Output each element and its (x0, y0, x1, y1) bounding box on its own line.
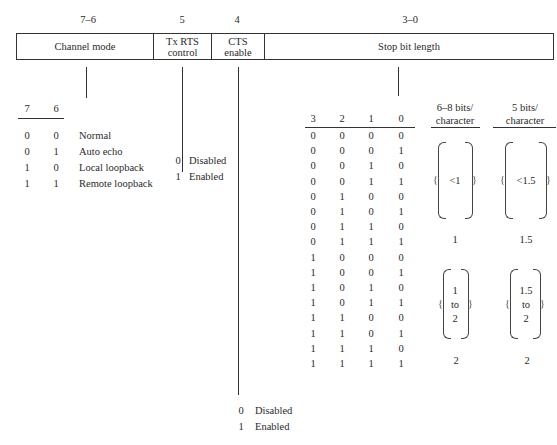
field-stop-bit-label: Stop bit length (378, 41, 440, 52)
tx-rts-opt-0-value: 0 (175, 155, 180, 167)
stop-bit-cell: 1 (398, 328, 403, 340)
tx-rts-opt-0-label: Disabled (189, 155, 226, 167)
brace-left-icon (438, 142, 446, 219)
stop-bit-cell: 0 (398, 160, 403, 172)
stop-bit-cell: 1 (368, 343, 373, 355)
brace-tip-icon: } (468, 299, 473, 309)
stop-bit-cell: 1 (339, 206, 344, 218)
stop-bit-cell: 0 (368, 328, 373, 340)
cts-opt-0-value: 0 (238, 405, 243, 417)
stop-bit-cell: 1 (310, 297, 315, 309)
stop-bit-cell: 1 (339, 343, 344, 355)
field-tx-rts-control: Tx RTS control (154, 34, 212, 59)
channel-row-2-b7: 1 (24, 162, 29, 174)
stop-bit-cell: 0 (368, 191, 373, 203)
brace-tip-icon: { (433, 175, 438, 185)
stop-bit-cell: 1 (368, 221, 373, 233)
cts-opt-0-label: Disabled (255, 405, 292, 417)
value-5-range-to: to (522, 299, 530, 311)
stop-bit-cell: 0 (339, 252, 344, 264)
stop-bit-cell: 0 (368, 252, 373, 264)
field-stop-bit-length: Stop bit length (265, 34, 553, 59)
channel-row-1-label: Auto echo (79, 146, 122, 158)
field-cts-enable: CTS enable (212, 34, 265, 59)
stop-bit-cell: 1 (398, 297, 403, 309)
channel-row-1-b7: 0 (24, 146, 29, 158)
tx-rts-opt-1-label: Enabled (189, 171, 223, 183)
stop-header-0: 0 (398, 113, 403, 125)
channel-header-rule (18, 118, 64, 119)
brace-tip-icon: } (540, 299, 545, 309)
value-6-8-row15: 2 (453, 355, 458, 367)
stop-bit-cell: 1 (339, 312, 344, 324)
stop-bit-cell: 1 (310, 282, 315, 294)
stop-bit-cell: 1 (398, 236, 403, 248)
channel-row-0-b7: 0 (24, 130, 29, 142)
value-5-range-end: 2 (523, 313, 528, 325)
channel-row-2-label: Local loopback (79, 162, 144, 174)
stop-bits-header-rule (305, 127, 415, 128)
register-box: Channel mode Tx RTS control CTS enable S… (16, 33, 554, 60)
value-5-range-from: 1.5 (519, 285, 532, 297)
value-6-8-range-from: 1 (452, 285, 457, 297)
brace-tip-icon: { (505, 299, 510, 309)
bit-label-3-0: 3–0 (402, 14, 418, 26)
stop-bit-cell: 0 (339, 176, 344, 188)
stop-bit-cell: 1 (339, 221, 344, 233)
stop-bit-cell: 1 (310, 252, 315, 264)
header-5-line1: 5 bits/ (512, 102, 538, 114)
stop-bit-cell: 0 (398, 343, 403, 355)
channel-row-2-b6: 0 (53, 162, 58, 174)
connector-stop-bits (398, 67, 399, 96)
value-5-row7: 1.5 (519, 234, 532, 246)
stop-bit-cell: 1 (368, 282, 373, 294)
stop-bit-cell: 0 (368, 206, 373, 218)
brace-tip-icon: { (438, 299, 443, 309)
stop-bit-cell: 0 (310, 221, 315, 233)
stop-bit-cell: 1 (339, 191, 344, 203)
cts-opt-1-value: 1 (238, 421, 243, 433)
stop-bit-cell: 0 (310, 206, 315, 218)
bit-label-4: 4 (234, 14, 239, 26)
stop-bit-cell: 0 (398, 191, 403, 203)
stop-bit-cell: 0 (310, 145, 315, 157)
stop-bit-cell: 0 (368, 312, 373, 324)
stop-bit-cell: 1 (310, 312, 315, 324)
field-channel-mode: Channel mode (17, 34, 154, 59)
channel-row-3-b7: 1 (24, 178, 29, 190)
value-6-8-range-end: 2 (452, 313, 457, 325)
value-6-8-range-to: to (451, 299, 459, 311)
stop-bit-cell: 1 (368, 358, 373, 370)
header-6-8-rule (431, 127, 480, 128)
brace-left-icon (443, 269, 451, 339)
stop-bit-cell: 1 (398, 267, 403, 279)
header-6-8-line2: character (436, 115, 474, 127)
stop-bit-cell: 1 (398, 145, 403, 157)
channel-header-7: 7 (24, 103, 29, 115)
brace-tip-icon: } (546, 175, 551, 185)
stop-bit-cell: 1 (339, 358, 344, 370)
stop-bit-cell: 1 (368, 160, 373, 172)
channel-row-1-b6: 1 (53, 146, 58, 158)
value-5-short: <1.5 (516, 175, 535, 187)
stop-bit-cell: 0 (339, 297, 344, 309)
brace-tip-icon: } (472, 175, 477, 185)
stop-bit-cell: 1 (398, 358, 403, 370)
channel-row-0-label: Normal (79, 130, 111, 142)
stop-bit-cell: 0 (339, 267, 344, 279)
stop-bit-cell: 0 (310, 160, 315, 172)
channel-row-0-b6: 0 (53, 130, 58, 142)
value-5-row15: 2 (524, 355, 529, 367)
stop-header-3: 3 (310, 113, 315, 125)
value-6-8-row7: 1 (452, 234, 457, 246)
stop-bit-cell: 0 (398, 252, 403, 264)
header-5-rule (493, 127, 556, 128)
channel-row-3-label: Remote loopback (79, 178, 153, 190)
channel-header-6: 6 (53, 103, 58, 115)
stop-bit-cell: 0 (398, 130, 403, 142)
header-6-8-line1: 6–8 bits/ (437, 102, 473, 114)
brace-left-icon (505, 142, 513, 219)
stop-bit-cell: 0 (310, 191, 315, 203)
tx-rts-opt-1-value: 1 (175, 171, 180, 183)
stop-bit-cell: 1 (310, 328, 315, 340)
